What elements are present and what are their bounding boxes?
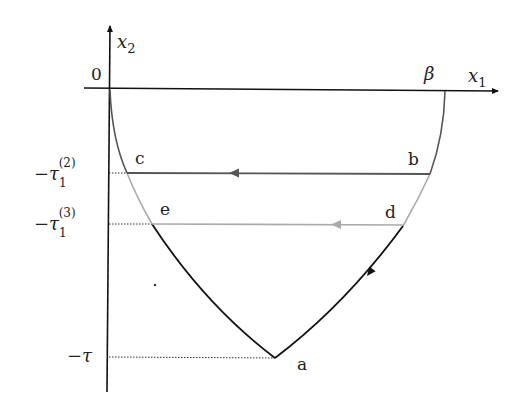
trajectory-diagram: x2 x1 0 β −τ1(2) −τ1(3) −τ c b e d a [0, 0, 526, 417]
point-label-b: b [408, 149, 419, 169]
tick-tau1-3: −τ1(3) [34, 206, 76, 240]
segment-d-to-e [152, 224, 403, 225]
stray-dot [154, 284, 156, 286]
curve-origin-to-c [110, 90, 127, 173]
guide-tau [109, 357, 275, 358]
tick-tau1-2: −τ1(2) [34, 156, 76, 190]
curve-b-to-d [403, 174, 430, 226]
segment-b-to-c [127, 173, 430, 174]
curve-beta-to-b [430, 91, 445, 174]
arrow-b-to-c [229, 169, 239, 178]
curve-e-to-a [152, 224, 275, 358]
x-axis-label: x1 [468, 65, 486, 90]
point-label-a: a [297, 354, 307, 374]
y-axis-label: x2 [117, 31, 135, 56]
beta-label: β [423, 63, 434, 84]
y-axis [107, 26, 110, 392]
point-label-c: c [135, 148, 145, 168]
x-axis [84, 88, 498, 91]
point-label-d: d [385, 202, 396, 222]
tick-tau: −τ [67, 345, 93, 366]
curve-d-to-a [275, 226, 403, 358]
origin-label: 0 [91, 64, 102, 84]
point-label-e: e [160, 199, 170, 219]
curve-c-to-e [127, 173, 152, 224]
arrow-d-to-e [331, 220, 341, 229]
